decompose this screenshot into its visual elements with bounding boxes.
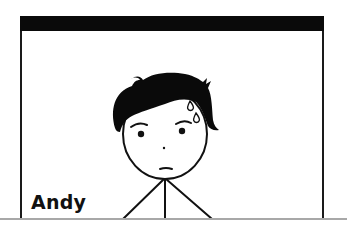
ground-line bbox=[0, 218, 347, 220]
left-eye bbox=[138, 131, 144, 137]
mouth bbox=[160, 168, 172, 169]
right-eye bbox=[179, 128, 185, 134]
left-arm bbox=[123, 179, 164, 219]
right-arm bbox=[166, 179, 212, 219]
nose bbox=[163, 147, 165, 149]
character-name-label: Andy bbox=[31, 191, 86, 213]
body bbox=[123, 179, 212, 219]
